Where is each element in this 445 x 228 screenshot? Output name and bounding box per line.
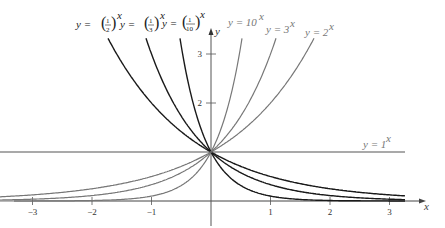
x-tick-label: 2: [328, 207, 333, 217]
x-axis-label: x: [423, 200, 429, 212]
x-tick-label: 1: [268, 207, 273, 217]
svg-text:x: x: [258, 10, 264, 22]
svg-text:y = 10: y = 10: [227, 16, 257, 28]
svg-text:1: 1: [149, 17, 153, 25]
label-half: y = ( 1 2 ) x: [75, 9, 122, 34]
curve-y-10-x: [0, 38, 242, 201]
y-tick-label: 3: [198, 49, 203, 59]
svg-text:y =: y =: [119, 18, 135, 30]
svg-text:x: x: [385, 132, 391, 144]
exponential-functions-chart: x y −3−2−112323 y = ( 1 2 ) x y = ( 1 3 …: [0, 0, 445, 228]
curves: [0, 38, 405, 201]
svg-text:x: x: [328, 20, 334, 32]
svg-text:y =: y =: [75, 18, 91, 30]
svg-text:y =: y =: [161, 17, 177, 29]
axis-ticks: −3−2−112323: [28, 49, 393, 217]
y-axis-label: y: [214, 25, 220, 37]
svg-text:x: x: [199, 8, 205, 20]
y-tick-label: 2: [198, 98, 203, 108]
x-tick-label: −3: [28, 207, 38, 217]
curve-y-3-x: [0, 38, 276, 200]
svg-text:): ): [111, 14, 116, 32]
label-third: y = ( 1 3 ) x: [119, 9, 165, 34]
x-tick-label: −1: [147, 207, 157, 217]
svg-text:10: 10: [186, 25, 194, 33]
svg-text:3: 3: [149, 26, 153, 34]
label-one: y = 1 x: [362, 132, 391, 150]
y-axis-arrow-icon: [209, 28, 214, 35]
svg-text:2: 2: [106, 26, 110, 34]
x-tick-label: 3: [387, 207, 392, 217]
svg-text:): ): [154, 14, 159, 32]
svg-text:x: x: [289, 17, 295, 29]
x-tick-label: −2: [87, 207, 97, 217]
svg-text:1: 1: [188, 16, 192, 24]
curve-y-1-10-x: [180, 38, 405, 201]
label-tenth: y = ( 1 10 ) x: [161, 8, 205, 33]
label-three: y = 3 x: [265, 17, 295, 35]
label-ten: y = 10 x: [227, 10, 264, 28]
svg-text:y = 2: y = 2: [304, 26, 329, 38]
svg-text:y = 1: y = 1: [362, 138, 386, 150]
svg-text:1: 1: [106, 17, 110, 25]
plot-area: x y −3−2−112323 y = ( 1 2 ) x y = ( 1 3 …: [0, 0, 445, 228]
label-two: y = 2 x: [304, 20, 334, 38]
svg-text:y = 3: y = 3: [265, 23, 290, 35]
